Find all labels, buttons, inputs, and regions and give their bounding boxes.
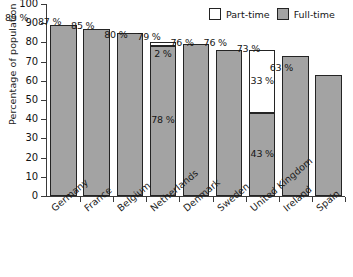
legend-swatch-full-time-icon <box>277 8 289 20</box>
x-axis-tick <box>113 197 114 202</box>
chart-legend: Part-time Full-time <box>209 8 335 20</box>
bar-segment-label-full-time: 43 % <box>250 148 275 159</box>
bar-segment-full-time: 78 % <box>150 46 177 196</box>
bar-netherlands: 78 %2 % <box>150 42 177 196</box>
bar-total-label: 85 % <box>70 20 97 31</box>
y-axis-tick-label: 80 <box>14 36 38 47</box>
x-axis-tick <box>146 197 147 202</box>
legend-swatch-part-time-icon <box>209 8 221 20</box>
bar-france <box>83 29 110 196</box>
legend-label-full-time: Full-time <box>294 9 335 20</box>
y-axis-tick <box>41 196 46 197</box>
bar-chart: Percentage of population of 16 – 18-year… <box>0 0 353 277</box>
x-axis-tick <box>345 197 346 202</box>
scan-artifact-footer <box>8 268 348 277</box>
bar-segment-full-time <box>50 25 77 196</box>
y-axis-tick-label: 50 <box>14 94 38 105</box>
x-axis-tick <box>312 197 313 202</box>
y-axis-tick-label: 30 <box>14 132 38 143</box>
bar-total-label: 73 % <box>235 43 262 54</box>
x-axis-tick <box>179 197 180 202</box>
y-axis-tick <box>41 42 46 43</box>
bar-segment-full-time <box>83 29 110 196</box>
bar-belgium <box>117 33 144 196</box>
x-axis-tick <box>279 197 280 202</box>
y-axis-tick <box>41 100 46 101</box>
y-axis-tick-label: 20 <box>14 152 38 163</box>
y-axis-tick <box>41 62 46 63</box>
y-axis-tick <box>41 81 46 82</box>
y-axis-tick-label: 60 <box>14 75 38 86</box>
legend-label-part-time: Part-time <box>226 9 270 20</box>
bar-segment-full-time <box>315 75 342 196</box>
bar-total-label: 76 % <box>202 37 229 48</box>
x-axis-tick <box>80 197 81 202</box>
legend-item-full-time: Full-time <box>277 8 335 20</box>
bar-segment-label-part-time: 2 % <box>151 48 176 59</box>
y-axis-tick-label: 70 <box>14 56 38 67</box>
y-axis-tick <box>41 119 46 120</box>
bar-spain <box>315 75 342 196</box>
y-axis-tick-label: 0 <box>14 190 38 201</box>
bar-segment-full-time <box>117 33 144 196</box>
bar-segment-full-time <box>216 50 243 196</box>
y-axis-tick-label: 40 <box>14 113 38 124</box>
y-axis-tick <box>41 158 46 159</box>
bar-segment-label-full-time: 78 % <box>151 114 176 125</box>
y-axis-tick <box>41 138 46 139</box>
bar-segment-label-part-time: 33 % <box>250 75 275 86</box>
bar-germany <box>50 25 77 196</box>
y-axis-tick-label: 100 <box>14 0 38 9</box>
bar-sweden <box>216 50 243 196</box>
legend-item-part-time: Part-time <box>209 8 270 20</box>
y-axis-tick <box>41 177 46 178</box>
x-axis-tick <box>246 197 247 202</box>
x-axis-tick <box>213 197 214 202</box>
y-axis-tick <box>41 4 46 5</box>
bar-total-label: 76 % <box>169 37 196 48</box>
y-axis-tick-label: 10 <box>14 171 38 182</box>
bar-total-label: 79 % <box>136 31 163 42</box>
bar-total-label: 63 % <box>268 62 295 73</box>
bar-total-label: 89 % <box>3 12 30 23</box>
bar-total-label: 87 % <box>36 16 63 27</box>
bar-segment-part-time: 33 % <box>249 50 276 113</box>
bar-total-label: 80 % <box>103 29 130 40</box>
